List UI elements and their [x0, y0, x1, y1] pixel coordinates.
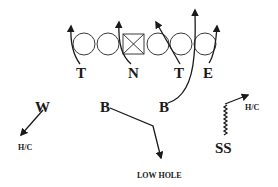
label-will: W [35, 99, 50, 115]
label-hc-left: H/C [18, 143, 32, 152]
label-nose: N [128, 65, 139, 81]
lineman-tight-end [194, 33, 216, 55]
route-ss-creep [224, 105, 227, 135]
route-blitz-backer [168, 10, 195, 103]
center-square [123, 34, 144, 54]
lineman-left-tackle [73, 33, 95, 55]
play-diagram: T N T E W H/C B LOW HOLE B H/C SS [0, 0, 278, 187]
route-nose [119, 22, 131, 64]
label-strong-safety: SS [215, 140, 232, 156]
route-will-drop [21, 110, 43, 135]
route-left-tackle [71, 26, 80, 64]
label-tackle-right: T [174, 65, 184, 81]
label-backer-left: B [100, 99, 110, 115]
label-tackle-left: T [76, 65, 86, 81]
lineman-right-guard [147, 33, 169, 55]
label-end: E [203, 65, 213, 81]
lineman-left-guard [97, 33, 119, 55]
route-right-tackle [156, 22, 180, 64]
label-low-hole: LOW HOLE [137, 171, 182, 180]
label-backer-right: B [159, 99, 169, 115]
label-hc-right: H/C [245, 103, 259, 112]
route-backer-low-hole [110, 108, 161, 158]
